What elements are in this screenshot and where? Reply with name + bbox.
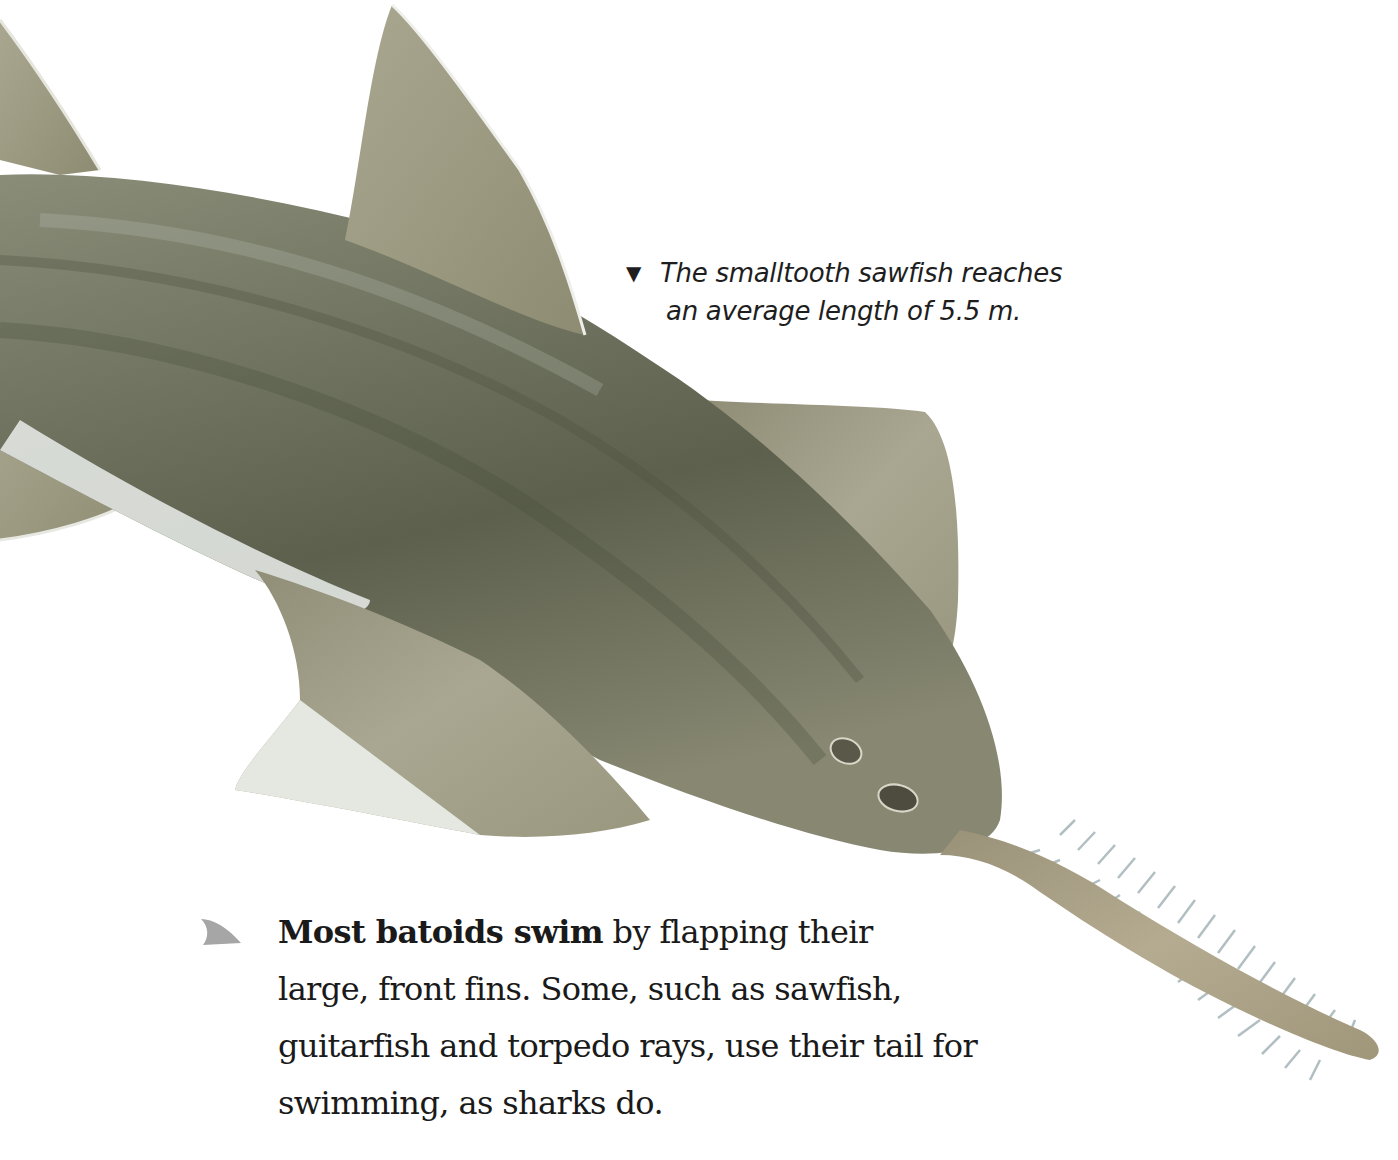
image-caption: ▼The smalltooth sawfish reaches an avera… bbox=[626, 254, 1096, 330]
paragraph-line-1: by flapping their bbox=[603, 913, 873, 951]
rear-fin bbox=[0, 20, 100, 175]
paragraph-line-2: large, front fins. Some, such as sawfish… bbox=[278, 961, 1038, 1018]
paragraph-line-4: swimming, as sharks do. bbox=[278, 1075, 1038, 1132]
body-paragraph: Most batoids swim by flapping their larg… bbox=[278, 904, 1038, 1132]
paragraph-lead: Most batoids swim bbox=[278, 913, 603, 951]
caption-line-2: an average length of 5.5 m. bbox=[626, 292, 1096, 330]
caption-triangle-icon: ▼ bbox=[626, 254, 660, 292]
shark-fin-icon bbox=[199, 917, 243, 947]
paragraph-line-3: guitarfish and torpedo rays, use their t… bbox=[278, 1018, 1038, 1075]
caption-line-1: The smalltooth sawfish reaches bbox=[660, 258, 1062, 288]
